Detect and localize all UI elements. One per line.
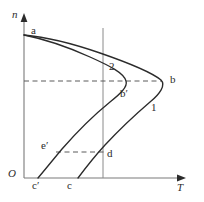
- curve-label-1: 1: [151, 102, 157, 113]
- point-label-e-prime: e′: [41, 140, 48, 151]
- curve-label-2: 2: [109, 61, 115, 72]
- point-label-a: a: [31, 25, 36, 36]
- point-label-d: d: [107, 148, 113, 159]
- point-label-b-prime: b′: [120, 88, 128, 99]
- c-curve-1: [24, 35, 163, 178]
- y-axis-arrowhead: [21, 13, 28, 22]
- ttt-curve-figure: n T O a b b′ e′ d c′ c 2 1: [0, 0, 204, 202]
- point-label-c-prime: c′: [32, 180, 39, 191]
- point-label-c: c: [67, 180, 72, 191]
- point-label-b: b: [170, 74, 176, 85]
- origin-label: O: [8, 168, 16, 179]
- x-axis-label: T: [177, 182, 183, 193]
- y-axis-label: n: [12, 9, 18, 20]
